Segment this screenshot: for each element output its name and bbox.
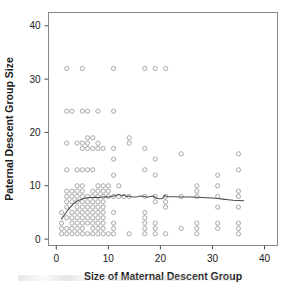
data-point	[70, 221, 74, 225]
data-point	[101, 205, 105, 209]
data-point	[143, 232, 147, 236]
data-point	[80, 146, 84, 150]
data-point	[101, 210, 105, 214]
data-point	[127, 232, 131, 236]
data-point	[80, 66, 84, 70]
data-point	[65, 168, 69, 172]
data-point	[65, 232, 69, 236]
data-point	[70, 200, 74, 204]
data-point	[91, 189, 95, 193]
data-point	[101, 232, 105, 236]
data-point	[111, 232, 115, 236]
data-point	[179, 152, 183, 156]
data-point	[111, 109, 115, 113]
data-point	[101, 146, 105, 150]
data-point	[216, 205, 220, 209]
data-point	[236, 226, 240, 230]
data-point	[111, 210, 115, 214]
data-point	[101, 184, 105, 188]
data-point	[96, 232, 100, 236]
data-point	[91, 210, 95, 214]
data-point	[91, 136, 95, 140]
data-point	[80, 200, 84, 204]
data-point	[59, 226, 63, 230]
data-point	[65, 141, 69, 145]
data-point	[75, 184, 79, 188]
plot-canvas: 010203040 010203040 Size of Maternal Des…	[0, 0, 288, 290]
data-point	[75, 189, 79, 193]
data-point	[236, 168, 240, 172]
data-point	[143, 210, 147, 214]
data-point	[80, 184, 84, 188]
data-point	[80, 109, 84, 113]
data-point	[111, 173, 115, 177]
data-point	[236, 152, 240, 156]
data-point	[216, 221, 220, 225]
data-point	[80, 216, 84, 220]
data-point	[80, 168, 84, 172]
data-point	[65, 66, 69, 70]
data-point	[111, 157, 115, 161]
data-point	[117, 184, 121, 188]
x-axis-tick-labels: 010203040	[54, 253, 271, 264]
data-point	[195, 232, 199, 236]
data-point	[96, 189, 100, 193]
data-point	[143, 216, 147, 220]
data-point	[75, 205, 79, 209]
data-point	[85, 205, 89, 209]
data-point	[91, 221, 95, 225]
data-point	[91, 226, 95, 230]
data-point	[91, 168, 95, 172]
data-point	[91, 200, 95, 204]
data-point	[216, 184, 220, 188]
data-point	[195, 221, 199, 225]
data-point	[80, 194, 84, 198]
data-point	[65, 109, 69, 113]
data-point	[143, 146, 147, 150]
data-point	[153, 66, 157, 70]
data-point	[65, 226, 69, 230]
data-point	[75, 168, 79, 172]
data-point	[153, 232, 157, 236]
x-axis-ticks	[56, 246, 264, 250]
data-point	[111, 226, 115, 230]
data-point	[91, 146, 95, 150]
data-point	[65, 216, 69, 220]
data-point	[101, 216, 105, 220]
data-point	[153, 173, 157, 177]
y-axis-ticks	[45, 26, 49, 239]
y-tick-label: 40	[29, 20, 41, 31]
data-point	[143, 221, 147, 225]
data-point	[85, 168, 89, 172]
data-point	[164, 205, 168, 209]
data-point	[106, 184, 110, 188]
data-point	[216, 226, 220, 230]
data-point	[91, 232, 95, 236]
data-point	[70, 194, 74, 198]
data-point	[85, 216, 89, 220]
data-point	[195, 184, 199, 188]
y-axis-label: Paternal Descent Group Size	[3, 57, 15, 201]
data-point	[143, 66, 147, 70]
data-point	[101, 221, 105, 225]
data-point	[85, 232, 89, 236]
data-point	[106, 189, 110, 193]
scatter-plot-figure: 010203040 010203040 Size of Maternal Des…	[0, 0, 288, 290]
y-axis-tick-labels: 010203040	[29, 20, 41, 244]
data-point	[236, 189, 240, 193]
data-point	[96, 210, 100, 214]
data-point	[111, 221, 115, 225]
data-point	[153, 157, 157, 161]
data-point	[96, 226, 100, 230]
y-tick-label: 20	[29, 127, 41, 138]
data-point	[75, 194, 79, 198]
data-point	[96, 184, 100, 188]
data-point	[70, 232, 74, 236]
data-point	[111, 146, 115, 150]
data-point	[164, 66, 168, 70]
data-point	[96, 205, 100, 209]
data-point	[65, 194, 69, 198]
data-point	[75, 141, 79, 145]
data-point	[75, 210, 79, 214]
data-point	[80, 141, 84, 145]
